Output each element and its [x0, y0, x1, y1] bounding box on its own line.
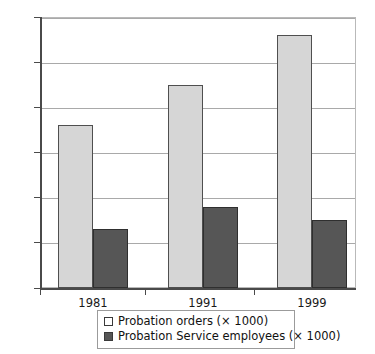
y-tick-20 [34, 197, 40, 198]
bar-probation-employees-1991 [203, 207, 238, 288]
bar-probation-orders-1991 [168, 85, 203, 288]
bar-probation-orders-1999 [277, 35, 312, 288]
legend-label-probation-employees: Probation Service employees (× 1000) [118, 330, 340, 343]
x-tick-label-1999: 1999 [282, 297, 342, 309]
x-tick-1981-1991 [145, 290, 146, 295]
bar-probation-employees-1999 [312, 220, 347, 288]
y-tick-10 [34, 242, 40, 243]
x-tick-1991-1999 [254, 290, 255, 295]
legend-item-probation-orders: Probation orders (× 1000) [104, 314, 288, 329]
bar-probation-orders-1981 [58, 125, 93, 288]
y-axis [40, 17, 42, 289]
legend-swatch-dark-gray-icon [104, 332, 113, 341]
x-tick-label-1981: 1981 [63, 297, 123, 309]
legend: Probation orders (× 1000) Probation Serv… [97, 310, 295, 349]
gridline-60 [41, 18, 355, 19]
y-tick-60 [34, 17, 40, 18]
bar-probation-employees-1981 [93, 229, 128, 288]
legend-label-probation-orders: Probation orders (× 1000) [118, 315, 268, 328]
legend-swatch-light-gray-icon [104, 317, 113, 326]
x-tick-label-1991: 1991 [173, 297, 233, 309]
x-axis [40, 288, 356, 290]
y-tick-50 [34, 62, 40, 63]
bar-chart: 60 50 40 30 20 10 0 1981 1991 1999 Proba… [0, 0, 375, 354]
legend-item-probation-employees: Probation Service employees (× 1000) [104, 329, 288, 344]
x-tick-left [40, 290, 41, 295]
y-tick-30 [34, 152, 40, 153]
y-tick-40 [34, 107, 40, 108]
